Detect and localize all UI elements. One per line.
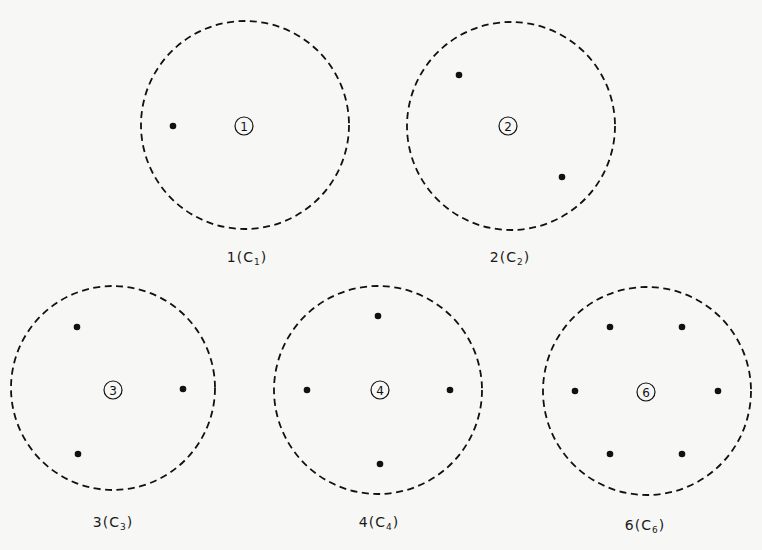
- equivalent-point-dot: [559, 174, 566, 181]
- label-main: 1(C: [227, 249, 254, 265]
- figure-fold-3: 3: [11, 286, 215, 490]
- figure-fold-1: 1: [141, 21, 349, 229]
- label-end: ): [393, 514, 399, 530]
- figure-label: 3(C3): [93, 514, 133, 533]
- equivalent-point-dot: [715, 388, 722, 395]
- figure-label: 2(C2): [490, 249, 530, 268]
- equivalent-point-dot: [304, 387, 311, 394]
- figure-label: 1(C1): [227, 249, 267, 268]
- figure-fold-4: 4: [274, 286, 482, 494]
- rotation-order-numeral: 3: [109, 384, 117, 398]
- rotation-order-numeral: 6: [642, 386, 650, 400]
- figure-label: 6(C6): [625, 517, 665, 536]
- equivalent-point-dot: [607, 451, 614, 458]
- label-subscript: 4: [386, 522, 393, 532]
- label-subscript: 6: [652, 525, 659, 535]
- label-main: 2(C: [490, 249, 517, 265]
- label-end: ): [127, 514, 133, 530]
- equivalent-point-dot: [180, 386, 187, 393]
- equivalent-point-dot: [375, 313, 382, 320]
- equivalent-point-dot: [456, 72, 463, 79]
- label-subscript: 3: [120, 522, 127, 532]
- label-main: 4(C: [359, 514, 386, 530]
- figure-fold-6: 6: [543, 287, 751, 495]
- label-subscript: 2: [517, 257, 524, 267]
- label-end: ): [524, 249, 530, 265]
- equivalent-point-dot: [572, 388, 579, 395]
- equivalent-point-dot: [75, 451, 82, 458]
- figure-label: 4(C4): [359, 514, 399, 533]
- rotation-order-numeral: 1: [240, 120, 248, 134]
- equivalent-point-dot: [74, 324, 81, 331]
- rotation-order-numeral: 2: [504, 120, 512, 134]
- label-main: 6(C: [625, 517, 652, 533]
- equivalent-point-dot: [679, 324, 686, 331]
- equivalent-point-dot: [447, 387, 454, 394]
- label-end: ): [659, 517, 665, 533]
- label-end: ): [261, 249, 267, 265]
- label-main: 3(C: [93, 514, 120, 530]
- equivalent-point-dot: [377, 461, 384, 468]
- figure-fold-2: 2: [407, 22, 615, 230]
- label-subscript: 1: [254, 257, 261, 267]
- symmetry-diagram: 12346: [0, 0, 762, 550]
- equivalent-point-dot: [607, 324, 614, 331]
- equivalent-point-dot: [679, 451, 686, 458]
- equivalent-point-dot: [170, 123, 177, 130]
- rotation-order-numeral: 4: [376, 384, 384, 398]
